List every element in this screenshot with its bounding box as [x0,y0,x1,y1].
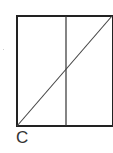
diagonal-line [17,16,112,126]
scan-speck [3,49,4,50]
figure-label: C [16,129,28,146]
